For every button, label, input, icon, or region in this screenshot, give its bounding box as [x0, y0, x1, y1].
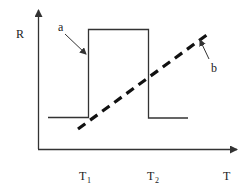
curve-b-dashed-ramp: [78, 34, 208, 129]
x-axis-label: T: [223, 169, 231, 183]
svg-text:1: 1: [87, 176, 91, 185]
y-axis-label: R: [16, 27, 24, 41]
curve-a-label: a: [58, 20, 64, 34]
curve-b-label: b: [211, 61, 217, 75]
diagram-canvas: R T a b T 1 T 2: [0, 0, 249, 191]
svg-text:T: T: [147, 169, 155, 183]
svg-text:T: T: [79, 169, 87, 183]
svg-text:2: 2: [155, 176, 159, 185]
pointer-arrow-b: [200, 40, 209, 59]
tick-label-t1: T 1: [79, 169, 91, 185]
pointer-arrow-a: [65, 34, 86, 54]
tick-label-t2: T 2: [147, 169, 159, 185]
curve-a-pulse: [48, 30, 188, 119]
